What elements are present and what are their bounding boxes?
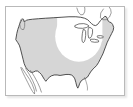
- map-thumbnail-root: Contiguous United States: [0, 0, 133, 107]
- us-map-svg: [6, 7, 124, 95]
- canada-border-north: [77, 7, 85, 15]
- lake-erie: [90, 39, 98, 42]
- florida-outline: [85, 77, 88, 90]
- lake-michigan: [82, 29, 86, 42]
- lake-superior: [75, 24, 89, 29]
- florida-layer: [85, 77, 88, 90]
- unshaded-region-layer: [55, 11, 102, 62]
- map-frame: [5, 6, 125, 96]
- lake-ontario: [97, 36, 103, 39]
